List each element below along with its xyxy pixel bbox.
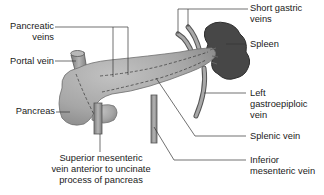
label-inferior-mesenteric-vein: Inferior mesenteric vein (250, 155, 315, 177)
label-spleen: Spleen (250, 39, 279, 50)
label-pancreatic-veins: Pancreatic veins (2, 21, 54, 43)
superior-mesenteric-vein-shape (94, 103, 102, 134)
label-portal-vein: Portal vein (2, 56, 54, 67)
label-short-gastric-veins: Short gastric veins (250, 3, 302, 25)
label-left-gastroepiploic-vein: Left gastroepiploic vein (250, 88, 307, 121)
diagram-canvas: Pancreatic veins Portal vein Pancreas Su… (0, 0, 324, 195)
inferior-mesenteric-vein-shape (151, 95, 157, 143)
label-superior-mesenteric-vein: Superior mesenteric vein anterior to unc… (40, 153, 162, 186)
left-gastroepiploic-vein-shape (196, 68, 205, 116)
label-pancreas: Pancreas (2, 106, 55, 117)
label-splenic-vein: Splenic vein (250, 131, 300, 142)
